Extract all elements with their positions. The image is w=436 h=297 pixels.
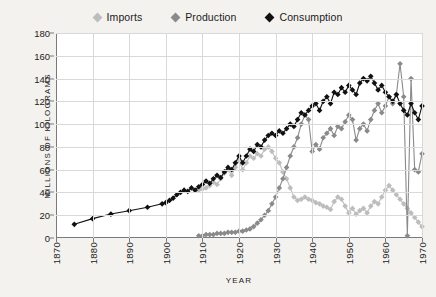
data-point-marker — [269, 201, 275, 207]
series-imports — [196, 144, 425, 229]
y-tick-label: 80 — [10, 141, 50, 152]
gridline-vertical — [239, 33, 240, 238]
x-tick-label: 1900 — [160, 242, 171, 264]
x-axis-title: YEAR — [56, 276, 422, 285]
series-line — [199, 64, 422, 236]
chart-legend: ImportsProductionConsumption — [0, 8, 436, 26]
legend-item-consumption[interactable]: Consumption — [266, 11, 342, 23]
diamond-marker-imports — [92, 12, 102, 22]
x-tick-label: 1890 — [124, 242, 135, 264]
x-tick-label: 1950 — [343, 242, 354, 264]
series-line — [74, 76, 422, 224]
x-tick-label: 1970 — [417, 242, 428, 264]
y-tick-mark — [50, 146, 54, 147]
gridline-vertical — [276, 33, 277, 238]
data-point-marker — [295, 117, 301, 123]
y-tick-mark — [50, 124, 54, 125]
legend-item-imports[interactable]: Imports — [94, 11, 143, 23]
y-tick-label: 180 — [10, 28, 50, 39]
gridline-vertical — [129, 33, 130, 238]
x-tick-mark — [349, 238, 350, 242]
legend-item-production[interactable]: Production — [172, 11, 236, 23]
y-tick-label: 20 — [10, 210, 50, 221]
data-point-marker — [372, 108, 378, 114]
data-point-marker — [401, 94, 407, 100]
data-point-marker — [287, 153, 293, 159]
chart-container: ImportsProductionConsumption MILLIONS OF… — [0, 0, 436, 297]
x-tick-mark — [56, 238, 57, 242]
data-point-marker — [145, 204, 151, 210]
x-tick-label: 1910 — [197, 242, 208, 264]
y-tick-mark — [50, 215, 54, 216]
gridline-vertical — [93, 33, 94, 238]
y-tick-mark — [50, 78, 54, 79]
y-tick-mark — [50, 192, 54, 193]
data-point-marker — [295, 135, 301, 141]
y-tick-label: 60 — [10, 164, 50, 175]
x-tick-mark — [385, 238, 386, 242]
x-tick-label: 1940 — [307, 242, 318, 264]
data-point-marker — [368, 117, 374, 123]
x-tick-label: 1880 — [87, 242, 98, 264]
x-tick-mark — [93, 238, 94, 242]
data-point-marker — [379, 110, 385, 116]
data-point-marker — [372, 80, 378, 86]
legend-label: Consumption — [279, 11, 342, 23]
data-point-marker — [379, 194, 385, 200]
y-tick-label: 0 — [10, 233, 50, 244]
y-tick-mark — [50, 33, 54, 34]
x-tick-mark — [312, 238, 313, 242]
gridline-vertical — [312, 33, 313, 238]
series-production — [196, 61, 425, 239]
gridline-vertical — [166, 33, 167, 238]
x-tick-mark — [202, 238, 203, 242]
y-tick-label: 40 — [10, 187, 50, 198]
data-point-marker — [71, 222, 77, 228]
y-tick-mark — [50, 169, 54, 170]
x-tick-mark — [276, 238, 277, 242]
x-tick-mark — [422, 238, 423, 242]
data-point-marker — [364, 128, 370, 134]
gridline-vertical — [422, 33, 423, 238]
legend-label: Production — [185, 11, 236, 23]
x-tick-label: 1930 — [270, 242, 281, 264]
data-point-marker — [394, 92, 400, 98]
data-point-marker — [416, 117, 422, 123]
data-point-marker — [342, 203, 348, 209]
data-point-marker — [287, 185, 293, 191]
y-tick-label: 140 — [10, 73, 50, 84]
data-point-marker — [353, 137, 359, 143]
data-point-marker — [331, 133, 337, 139]
data-point-marker — [397, 61, 403, 67]
gridline-vertical — [349, 33, 350, 238]
x-tick-label: 1920 — [234, 242, 245, 264]
gridline-vertical — [202, 33, 203, 238]
y-tick-mark — [50, 55, 54, 56]
gridline-vertical — [385, 33, 386, 238]
x-tick-mark — [166, 238, 167, 242]
legend-label: Imports — [107, 11, 143, 23]
y-tick-mark — [50, 238, 54, 239]
x-tick-label: 1960 — [380, 242, 391, 264]
x-axis-ticks: 1870188018901900191019201930194019501960… — [56, 238, 422, 278]
y-axis-ticks: 020406080100120140160180 — [10, 33, 50, 238]
y-tick-label: 120 — [10, 96, 50, 107]
plot-area — [56, 33, 422, 238]
x-tick-mark — [239, 238, 240, 242]
y-tick-label: 100 — [10, 119, 50, 130]
x-tick-mark — [129, 238, 130, 242]
data-point-marker — [229, 173, 235, 179]
y-tick-mark — [50, 101, 54, 102]
data-point-marker — [317, 108, 323, 114]
y-tick-label: 160 — [10, 50, 50, 61]
diamond-marker-consumption — [265, 12, 275, 22]
data-point-marker — [276, 185, 282, 191]
diamond-marker-production — [171, 12, 181, 22]
x-tick-label: 1870 — [51, 242, 62, 264]
